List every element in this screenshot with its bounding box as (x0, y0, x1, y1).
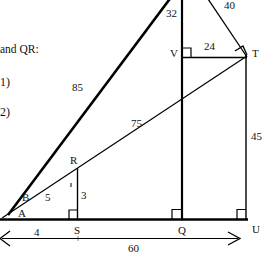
list-item-1: 1) (0, 76, 10, 88)
vertex-label-S: S (74, 225, 80, 236)
geometry-figure: and QR: 1) 2) A B R S Q U T V 85 75 32 4… (0, 0, 270, 256)
length-label-24: 24 (204, 41, 215, 52)
vertex-label-A: A (18, 208, 26, 219)
length-label-40: 40 (224, 0, 235, 11)
right-angle-marker-s (69, 210, 78, 219)
vertex-label-V: V (170, 48, 178, 59)
length-label-45: 45 (251, 131, 262, 142)
line-85-thick (8, 0, 172, 215)
vertex-label-U: U (252, 224, 260, 235)
length-label-4: 4 (34, 227, 40, 238)
length-label-60: 60 (128, 243, 139, 254)
length-label-5: 5 (45, 192, 51, 203)
length-label-75: 75 (131, 118, 142, 129)
line-75-thin (2, 56, 247, 218)
vertex-label-R: R (70, 155, 77, 166)
right-angle-marker-q (172, 210, 182, 220)
right-angle-marker-v (182, 48, 191, 58)
list-item-2: 2) (0, 106, 10, 118)
prose-fragment: and QR: (0, 44, 39, 56)
length-label-32: 32 (166, 8, 177, 19)
vertex-label-B: B (22, 192, 29, 203)
vertex-label-Q: Q (178, 225, 186, 236)
length-label-85: 85 (72, 82, 83, 93)
length-label-3: 3 (81, 190, 87, 201)
right-angle-marker-u (237, 210, 246, 220)
vertex-label-T: T (252, 48, 259, 59)
